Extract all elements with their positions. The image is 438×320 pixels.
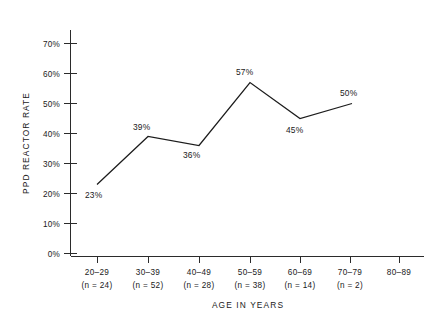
point-label-40-49: 36% [183, 150, 201, 160]
x-tick-sublabel-50-59: (n = 38) [235, 281, 266, 290]
x-tick-sublabel-40-49: (n = 28) [184, 281, 215, 290]
series-line-ppd-reactor-rate [97, 83, 352, 185]
x-tick-label-80-89: 80–89 [387, 268, 411, 277]
y-tick-label-0: 0% [48, 250, 60, 259]
point-label-60-69: 45% [286, 125, 304, 135]
x-tick-label-30-39: 30–39 [136, 268, 160, 277]
y-axis-title: PPD REACTOR RATE [21, 92, 31, 194]
y-tick-label-20: 20% [43, 190, 60, 199]
x-tick-label-50-59: 50–59 [238, 268, 262, 277]
point-label-50-59: 57% [236, 67, 254, 77]
x-tick-label-70-79: 70–79 [338, 268, 362, 277]
x-tick-sublabel-20-29: (n = 24) [82, 281, 113, 290]
y-tick-label-60: 60% [43, 70, 60, 79]
y-tick-label-40: 40% [43, 130, 60, 139]
x-tick-label-20-29: 20–29 [85, 268, 109, 277]
y-tick-label-30: 30% [43, 160, 60, 169]
x-tick-label-40-49: 40–49 [187, 268, 211, 277]
chart-canvas: 70% 60% 50% 40% 30% 20% 10% 0% 20–29 30–… [0, 0, 438, 320]
point-label-70-79: 50% [340, 88, 358, 98]
x-axis-title: AGE IN YEARS [212, 300, 284, 310]
x-tick-sublabel-60-69: (n = 14) [285, 281, 316, 290]
x-tick-sublabel-70-79: (n = 2) [337, 281, 363, 290]
y-tick-label-50: 50% [43, 100, 60, 109]
point-label-30-39: 39% [133, 122, 151, 132]
point-label-20-29: 23% [85, 190, 103, 200]
x-tick-label-60-69: 60–69 [288, 268, 312, 277]
line-chart: 70% 60% 50% 40% 30% 20% 10% 0% 20–29 30–… [0, 0, 438, 320]
y-tick-label-70: 70% [43, 40, 60, 49]
x-tick-sublabel-30-39: (n = 52) [133, 281, 164, 290]
y-tick-label-10: 10% [43, 220, 60, 229]
